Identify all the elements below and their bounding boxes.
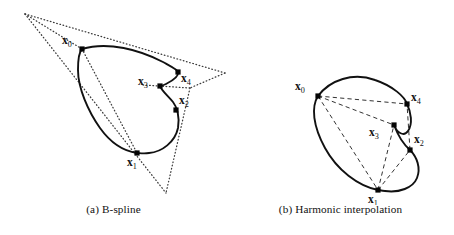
panel-harmonic-interpolation: x0 x4 x3 x2 x1 (b)Harmonic interpolation xyxy=(227,0,454,235)
point-label-x4: x4 xyxy=(411,91,421,106)
control-edge-hull-upper xyxy=(25,14,82,49)
control-edge-inner-x3 xyxy=(143,85,190,88)
point-marker-x0 xyxy=(315,93,320,98)
control-edge-top xyxy=(25,14,225,73)
point-marker-x0 xyxy=(79,46,84,51)
point-marker-x1 xyxy=(375,187,380,192)
point-label-x1: x1 xyxy=(127,156,137,171)
point-label-x4: x4 xyxy=(181,72,191,87)
chord-x1-x2 xyxy=(378,150,410,190)
control-edge-right xyxy=(190,73,225,88)
point-label-x0: x0 xyxy=(62,34,72,49)
harmonic-curve xyxy=(314,77,419,192)
harmonic-interpolation-plot: x0 x4 x3 x2 x1 xyxy=(227,0,454,205)
caption-panel-b: (b)Harmonic interpolation xyxy=(227,203,454,215)
point-label-x3: x3 xyxy=(369,126,379,141)
b-spline-plot: x0 x4 x3 x2 x1 xyxy=(0,0,227,205)
point-marker-x2 xyxy=(173,107,178,112)
point-marker-x4 xyxy=(404,101,409,106)
figure-root: x0 x4 x3 x2 x1 (a)B-spline xyxy=(0,0,454,235)
panel-b-spline: x0 x4 x3 x2 x1 (a)B-spline xyxy=(0,0,227,235)
caption-panel-a: (a)B-spline xyxy=(0,203,227,215)
point-marker-x2 xyxy=(407,147,412,152)
caption-tag-b: (b) xyxy=(279,203,292,215)
point-marker-x3 xyxy=(157,83,162,88)
point-label-x2: x2 xyxy=(414,133,424,148)
point-label-x2: x2 xyxy=(179,94,189,109)
control-polygon-dotted xyxy=(25,14,225,193)
chord-x0-x3 xyxy=(318,96,394,125)
chord-x1-x3 xyxy=(378,125,394,190)
control-edge-left xyxy=(25,14,166,193)
point-marker-x1 xyxy=(134,150,139,155)
interpolation-point-markers xyxy=(315,93,412,192)
chord-network-dashed xyxy=(318,96,410,190)
point-marker-x3 xyxy=(391,122,396,127)
chord-x0-x4 xyxy=(318,96,407,104)
caption-text-b: Harmonic interpolation xyxy=(295,203,402,215)
caption-tag-a: (a) xyxy=(86,203,99,215)
caption-text-a: B-spline xyxy=(102,203,141,215)
point-label-x0: x0 xyxy=(295,80,305,95)
point-marker-x4 xyxy=(175,69,180,74)
control-edge-hull-lower xyxy=(82,49,137,153)
point-label-x3: x3 xyxy=(138,75,148,90)
